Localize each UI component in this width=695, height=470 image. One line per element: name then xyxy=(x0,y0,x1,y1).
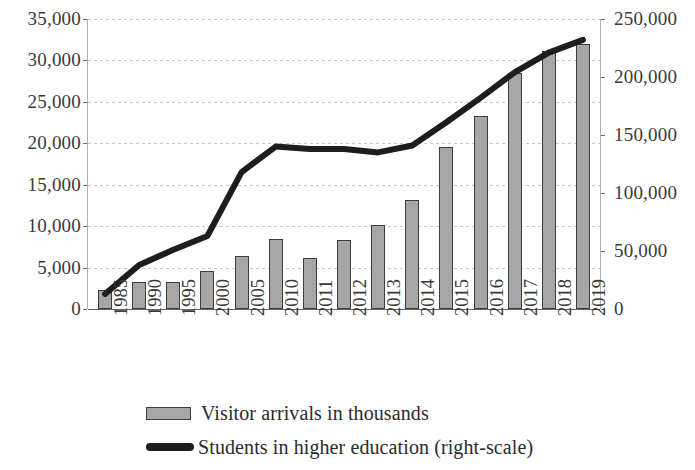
tickmark-right xyxy=(601,193,605,194)
y-tick-label-right: 50,000 xyxy=(614,241,667,260)
y-tick-label-right: 200,000 xyxy=(614,67,677,86)
tickmark-left xyxy=(83,19,87,20)
tickmark-left xyxy=(83,226,87,227)
legend-label-students: Students in higher education (right-scal… xyxy=(198,436,533,459)
x-tick-label-2015: 2015 xyxy=(453,279,472,316)
y-tick-label-right: 250,000 xyxy=(614,9,677,28)
y-tick-label-left: 0 xyxy=(71,299,81,318)
tickmark-left xyxy=(83,185,87,186)
x-tick-label-2012: 2012 xyxy=(351,279,370,316)
x-tick-label-1990: 1990 xyxy=(146,279,165,316)
x-tick-label-2019: 2019 xyxy=(590,279,609,316)
y-tick-label-left: 10,000 xyxy=(28,216,81,235)
x-tick-label-2017: 2017 xyxy=(522,279,541,316)
bar-swatch-icon xyxy=(146,407,191,420)
tickmark-left xyxy=(83,102,87,103)
chart-legend: Visitor arrivals in thousands Students i… xyxy=(0,396,695,464)
legend-item-visitor-arrivals: Visitor arrivals in thousands xyxy=(0,396,695,430)
x-tick-label-1995: 1995 xyxy=(180,279,199,316)
x-tick-label-2000: 2000 xyxy=(214,279,233,316)
tickmark-right xyxy=(601,135,605,136)
tickmark-right xyxy=(601,77,605,78)
y-tick-label-left: 20,000 xyxy=(28,133,81,152)
tickmark-right xyxy=(601,251,605,252)
x-tick-label-2018: 2018 xyxy=(556,279,575,316)
axis-line-right xyxy=(600,19,601,309)
line-swatch-icon xyxy=(146,443,194,451)
x-tick-label-2005: 2005 xyxy=(249,279,268,316)
tickmark-right xyxy=(601,19,605,20)
x-tick-label-2013: 2013 xyxy=(385,279,404,316)
y-tick-label-right: 0 xyxy=(614,299,624,318)
tickmark-left xyxy=(83,143,87,144)
students-line-path xyxy=(105,40,583,294)
plot-area xyxy=(88,19,600,309)
y-tick-label-right: 150,000 xyxy=(614,125,677,144)
y-tick-label-left: 30,000 xyxy=(28,50,81,69)
y-tick-label-left: 35,000 xyxy=(28,9,81,28)
legend-label-visitor-arrivals: Visitor arrivals in thousands xyxy=(201,402,429,425)
y-tick-label-right: 100,000 xyxy=(614,183,677,202)
tickmark-left xyxy=(83,268,87,269)
y-tick-label-left: 5,000 xyxy=(37,258,81,277)
x-tick-label-2016: 2016 xyxy=(488,279,507,316)
tickmark-left xyxy=(83,60,87,61)
x-tick-label-2011: 2011 xyxy=(317,280,336,316)
x-tick-label-2010: 2010 xyxy=(283,279,302,316)
line-series xyxy=(88,19,600,309)
legend-item-students: Students in higher education (right-scal… xyxy=(0,430,695,464)
tickmark-left xyxy=(83,309,87,310)
y-tick-label-left: 25,000 xyxy=(28,92,81,111)
chart-figure: 1985199019952000200520102011201220132014… xyxy=(0,0,695,470)
x-tick-label-2014: 2014 xyxy=(419,279,438,316)
x-tick-label-1985: 1985 xyxy=(112,279,131,316)
y-tick-label-left: 15,000 xyxy=(28,175,81,194)
